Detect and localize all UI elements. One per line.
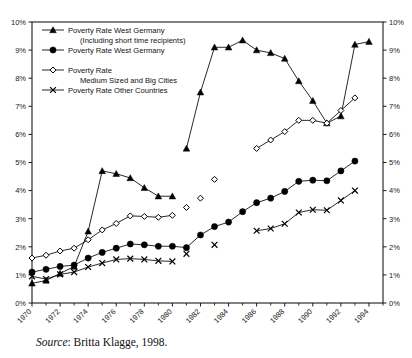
legend-item-series-west-germany[interactable]: Poverty Rate West Germany (42, 46, 165, 55)
x-tick-label: 1986 (240, 307, 258, 325)
y-tick-label-right: 0% (389, 299, 400, 308)
plot-area-border (32, 22, 383, 303)
data-point-marker (324, 178, 330, 184)
x-tick-label: 1978 (128, 307, 146, 325)
data-point-marker (310, 97, 317, 103)
y-tick-label-left: 2% (15, 243, 26, 252)
data-point-marker (113, 220, 119, 226)
chart-canvas: 0%1%2%3%4%5%6%7%8%9%10% 0%1%2%3%4%5%6%7%… (0, 0, 412, 358)
data-point-marker (127, 241, 133, 247)
data-point-marker (169, 243, 175, 249)
data-point-marker (197, 232, 203, 238)
legend-marker-circle (50, 47, 56, 53)
series-line (32, 259, 172, 280)
legend-label-line2: (Including short time recipients) (80, 36, 186, 45)
data-point-marker (253, 47, 260, 53)
data-point-marker (85, 228, 92, 234)
data-point-marker (43, 252, 49, 258)
x-tick-label: 1970 (15, 307, 33, 325)
data-point-marker (296, 178, 302, 184)
y-axis-left: 0%1%2%3%4%5%6%7%8%9%10% (11, 18, 32, 308)
data-point-marker (57, 248, 63, 254)
data-point-marker (239, 37, 246, 43)
data-point-marker (352, 158, 358, 164)
data-point-marker (141, 184, 148, 190)
data-point-marker (169, 212, 175, 218)
data-point-marker (268, 195, 274, 201)
x-tick-label: 1988 (268, 307, 286, 325)
x-tick-label: 1984 (212, 307, 230, 325)
y-tick-label-right: 7% (389, 102, 400, 111)
data-point-marker (99, 227, 105, 233)
y-tick-label-left: 0% (15, 299, 26, 308)
data-point-marker (366, 38, 373, 44)
isolated-data-points (183, 176, 217, 256)
y-tick-label-left: 7% (15, 102, 26, 111)
y-tick-label-left: 10% (11, 18, 26, 27)
data-point-marker (310, 117, 316, 123)
data-point-marker (254, 200, 260, 206)
x-axis: 1970197219741976197819801982198419861988… (15, 303, 383, 325)
series-line (32, 161, 355, 272)
y-tick-label-left: 5% (15, 158, 26, 167)
data-point-marker-isolated (212, 176, 218, 182)
legend-marker-diamond (50, 67, 56, 73)
data-point-marker (71, 245, 77, 251)
data-point-marker (113, 245, 119, 251)
y-tick-label-right: 4% (389, 186, 400, 195)
data-point-marker (155, 243, 161, 249)
data-point-marker (127, 213, 133, 219)
data-point-marker (183, 145, 190, 151)
y-tick-label-right: 3% (389, 215, 400, 224)
data-point-marker (57, 263, 63, 269)
data-point-marker (155, 214, 161, 220)
x-tick-label: 1980 (156, 307, 174, 325)
y-tick-label-left: 8% (15, 74, 26, 83)
y-tick-label-right: 10% (389, 18, 404, 27)
legend-label: Poverty Rate Other Countries (68, 86, 168, 95)
y-tick-label-right: 2% (389, 243, 400, 252)
data-point-marker (295, 78, 302, 84)
legend-label: Poverty Rate West Germany (68, 26, 165, 35)
y-tick-label-right: 5% (389, 158, 400, 167)
data-point-marker (281, 55, 288, 61)
data-point-marker-isolated (197, 195, 203, 201)
data-point-marker (141, 242, 147, 248)
legend-item-series-west-germany-incl-short-time[interactable]: Poverty Rate West Germany(Including shor… (42, 26, 186, 45)
source-text: Britta Klagge, 1998. (74, 336, 168, 348)
data-point-marker (310, 177, 316, 183)
legend-label: Poverty Rate (68, 66, 112, 75)
legend-item-series-other-countries[interactable]: Poverty Rate Other Countries (42, 86, 168, 95)
poverty-rate-chart-figure: 0%1%2%3%4%5%6%7%8%9%10% 0%1%2%3%4%5%6%7%… (0, 0, 412, 358)
y-tick-label-left: 4% (15, 186, 26, 195)
data-point-marker (282, 188, 288, 194)
data-point-marker (268, 137, 274, 143)
x-tick-label: 1974 (71, 307, 89, 325)
y-axis-right: 0%1%2%3%4%5%6%7%8%9%10% (383, 18, 404, 308)
chart-legend: Poverty Rate West Germany(Including shor… (42, 26, 186, 95)
data-point-marker (338, 168, 344, 174)
y-tick-label-right: 9% (389, 46, 400, 55)
y-tick-label-left: 3% (15, 215, 26, 224)
y-tick-label-right: 1% (389, 271, 400, 280)
x-tick-label: 1972 (43, 307, 61, 325)
data-point-marker (183, 245, 189, 251)
data-point-marker (85, 255, 91, 261)
data-point-marker (197, 89, 204, 95)
plot-frame (32, 22, 383, 303)
source-caption: Source: Britta Klagge, 1998. (36, 336, 168, 348)
data-point-marker (29, 255, 35, 261)
data-point-marker-isolated (183, 204, 189, 210)
data-point-marker (211, 223, 217, 229)
data-point-marker (99, 168, 106, 174)
x-tick-label: 1976 (99, 307, 117, 325)
legend-item-series-medium-big-cities[interactable]: Poverty RateMedium Sized and Big Cities (42, 66, 177, 85)
x-tick-label: 1992 (324, 307, 342, 325)
data-point-marker (71, 262, 77, 268)
data-point-marker (99, 249, 105, 255)
data-point-marker (240, 209, 246, 215)
data-point-marker (225, 219, 231, 225)
series-west-germany (29, 158, 358, 275)
data-point-marker (254, 145, 260, 151)
y-tick-label-right: 8% (389, 74, 400, 83)
